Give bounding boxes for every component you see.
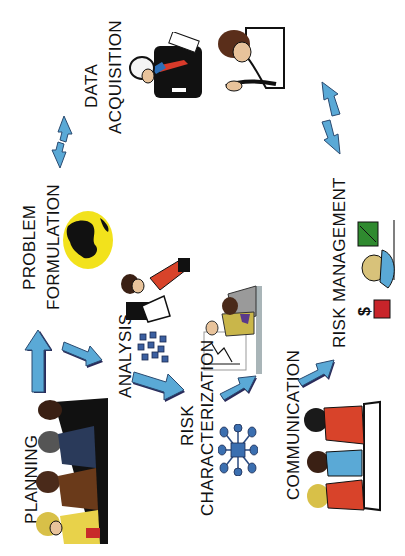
svg-text:$: $ bbox=[356, 307, 373, 316]
field-worker-2-icon bbox=[216, 26, 286, 94]
double-arrow-right bbox=[316, 80, 348, 156]
field-worker-icon bbox=[122, 32, 212, 104]
arrow-analysis-to-risk-char bbox=[130, 368, 186, 402]
globe-icon bbox=[62, 210, 114, 270]
arrow-risk-char-to-comm bbox=[218, 372, 258, 402]
label-risk-characterization-2: CHARACTERIZATION bbox=[198, 340, 218, 516]
label-risk-management: RISK MANAGEMENT bbox=[330, 177, 350, 348]
arrow-comm-to-risk-mgmt bbox=[296, 356, 336, 388]
double-arrow-left bbox=[48, 114, 76, 170]
label-risk-characterization: RISK bbox=[178, 405, 198, 446]
label-problem-formulation-2: FORMULATION bbox=[44, 184, 64, 310]
label-problem-formulation: PROBLEM bbox=[20, 205, 40, 290]
arrow-problem-to-analysis bbox=[60, 338, 104, 368]
hub-network-icon bbox=[218, 424, 258, 476]
audience-icon bbox=[302, 400, 382, 512]
network-cubes-icon bbox=[136, 330, 172, 364]
meeting-people-icon bbox=[34, 398, 108, 546]
manager-icon: $ bbox=[352, 220, 400, 328]
arrow-planning-to-problem bbox=[24, 330, 52, 394]
label-data-acquisition: DATA bbox=[82, 64, 102, 108]
